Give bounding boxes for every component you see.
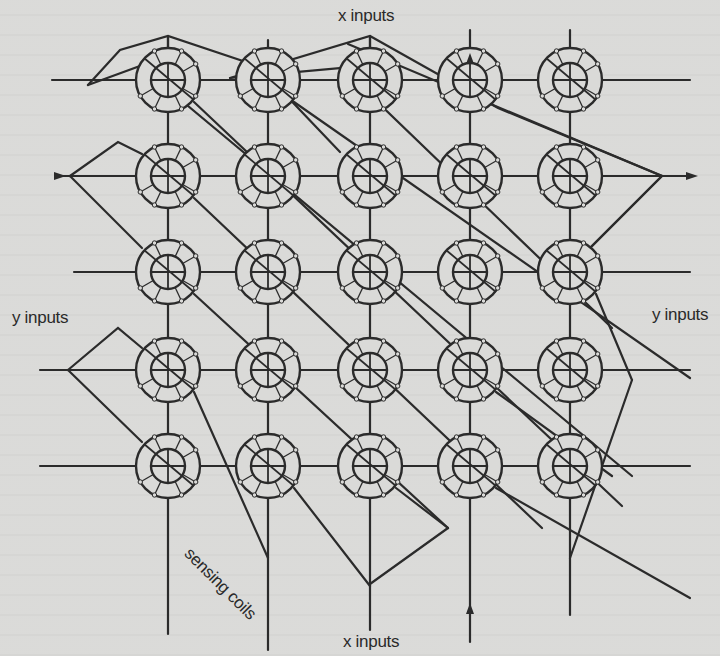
winding-terminal — [138, 480, 142, 484]
winding-terminal — [396, 480, 400, 484]
winding-terminal — [481, 203, 485, 207]
sensing-coil — [294, 102, 690, 378]
winding-terminal — [194, 352, 198, 356]
winding-terminal — [152, 145, 156, 149]
winding-terminal — [279, 49, 283, 53]
core — [438, 144, 502, 208]
winding-terminal — [238, 384, 242, 388]
winding-terminal — [354, 49, 358, 53]
winding-terminal — [496, 62, 500, 66]
winding-terminal — [238, 480, 242, 484]
core — [236, 144, 300, 208]
winding-terminal — [396, 286, 400, 290]
core — [538, 338, 602, 402]
winding-terminal — [396, 190, 400, 194]
winding-terminal — [440, 480, 444, 484]
winding-terminal — [381, 299, 385, 303]
winding-terminal — [454, 339, 458, 343]
winding-terminal — [294, 448, 298, 452]
winding-terminal — [454, 49, 458, 53]
winding-terminal — [179, 493, 183, 497]
winding-terminal — [581, 49, 585, 53]
winding-terminal — [581, 397, 585, 401]
sensing-coil — [70, 176, 142, 248]
winding-terminal — [354, 493, 358, 497]
winding-terminal — [354, 107, 358, 111]
winding-terminal — [252, 241, 256, 245]
winding-terminal — [340, 480, 344, 484]
winding-terminal — [596, 62, 600, 66]
winding-terminal — [340, 286, 344, 290]
arrow-right-icon — [54, 172, 66, 180]
winding-terminal — [554, 145, 558, 149]
winding-terminal — [252, 435, 256, 439]
winding-terminal — [252, 299, 256, 303]
winding-terminal — [381, 241, 385, 245]
winding-terminal — [581, 203, 585, 207]
winding-terminal — [596, 352, 600, 356]
winding-terminal — [496, 286, 500, 290]
winding-terminal — [252, 397, 256, 401]
winding-terminal — [554, 241, 558, 245]
core — [236, 48, 300, 112]
winding-terminal — [294, 286, 298, 290]
winding-terminal — [381, 107, 385, 111]
sensing-coil — [496, 488, 690, 598]
diagram-page: x inputs x inputs y inputs y inputs sens… — [0, 0, 720, 656]
winding-terminal — [440, 286, 444, 290]
winding-terminal — [194, 62, 198, 66]
winding-terminal — [194, 384, 198, 388]
winding-terminal — [481, 107, 485, 111]
winding-terminal — [279, 107, 283, 111]
winding-terminal — [481, 299, 485, 303]
winding-terminal — [354, 397, 358, 401]
winding-terminal — [454, 299, 458, 303]
core — [338, 144, 402, 208]
winding-terminal — [496, 254, 500, 258]
winding-terminal — [381, 435, 385, 439]
winding-terminal — [194, 286, 198, 290]
winding-terminal — [596, 254, 600, 258]
winding-terminal — [179, 339, 183, 343]
winding-terminal — [179, 435, 183, 439]
winding-terminal — [179, 299, 183, 303]
winding-terminal — [496, 352, 500, 356]
winding-terminal — [294, 480, 298, 484]
winding-terminal — [496, 480, 500, 484]
arrow-right-icon — [686, 172, 698, 180]
winding-terminal — [194, 158, 198, 162]
winding-terminal — [152, 493, 156, 497]
winding-terminal — [554, 203, 558, 207]
winding-terminal — [294, 94, 298, 98]
winding-terminal — [252, 145, 256, 149]
core — [136, 434, 200, 498]
arrow-up-icon — [466, 603, 474, 614]
winding-terminal — [581, 107, 585, 111]
winding-terminal — [554, 493, 558, 497]
x-inputs-top-label: x inputs — [338, 6, 394, 26]
winding-terminal — [596, 448, 600, 452]
winding-terminal — [294, 190, 298, 194]
winding-terminal — [396, 448, 400, 452]
winding-terminal — [596, 158, 600, 162]
winding-terminal — [194, 254, 198, 258]
winding-terminal — [279, 397, 283, 401]
winding-terminal — [581, 493, 585, 497]
core-memory-diagram — [0, 0, 720, 656]
winding-terminal — [440, 384, 444, 388]
winding-terminal — [252, 339, 256, 343]
winding-terminal — [454, 203, 458, 207]
winding-terminal — [294, 352, 298, 356]
winding-terminal — [454, 145, 458, 149]
winding-terminal — [152, 299, 156, 303]
winding-terminal — [581, 339, 585, 343]
winding-terminal — [279, 241, 283, 245]
winding-terminal — [279, 339, 283, 343]
winding-terminal — [238, 190, 242, 194]
winding-terminal — [179, 107, 183, 111]
winding-terminal — [152, 241, 156, 245]
winding-terminal — [554, 435, 558, 439]
winding-terminal — [481, 397, 485, 401]
winding-terminal — [138, 190, 142, 194]
winding-terminal — [454, 241, 458, 245]
